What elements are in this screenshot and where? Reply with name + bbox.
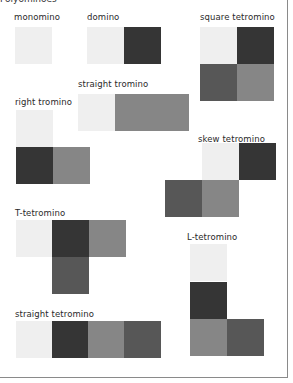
square-mid [53, 147, 90, 184]
square-dark [200, 64, 237, 101]
piece-label: straight tetromino [15, 309, 94, 319]
square-mid [202, 180, 239, 217]
square-light [15, 27, 52, 64]
square-light [190, 244, 227, 281]
square-light [16, 110, 53, 147]
square-light [202, 143, 239, 180]
square-dark [124, 321, 161, 358]
piece-label: square tetromino [200, 12, 275, 22]
square-darkest [237, 27, 274, 64]
square-darkest [16, 147, 53, 184]
square-mid [89, 220, 126, 257]
square-darkest [52, 321, 89, 358]
square-darkest [52, 220, 89, 257]
square-darkest [190, 282, 227, 319]
square-light [87, 27, 124, 64]
piece-label: straight tromino [78, 79, 148, 89]
square-darkest [239, 143, 276, 180]
square-mid [237, 64, 274, 101]
square-light [16, 321, 53, 358]
square-dark [165, 180, 202, 217]
square-dark [52, 257, 89, 294]
piece-label: monomino [14, 12, 60, 22]
cropped-heading: Polyominoes [0, 0, 57, 4]
square-light [78, 94, 115, 131]
piece-label: right tromino [15, 97, 72, 107]
square-light [16, 220, 53, 257]
square-darkest [124, 27, 161, 64]
piece-label: domino [87, 12, 119, 22]
square-mid [88, 321, 125, 358]
square-dark [227, 319, 264, 356]
square-mid [115, 94, 152, 131]
piece-label: L-tetromino [187, 232, 237, 242]
piece-label: T-tetromino [15, 208, 65, 218]
square-mid [152, 94, 189, 131]
square-light [200, 27, 237, 64]
square-mid [190, 319, 227, 356]
